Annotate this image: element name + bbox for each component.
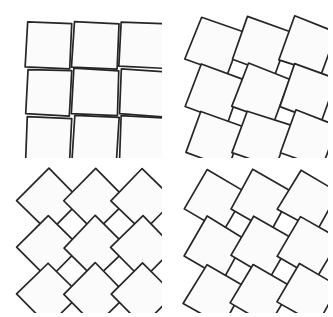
- tile-r0-c2: [279, 16, 328, 74]
- panel-bottom-right: [176, 163, 328, 313]
- panel-bottom-left-canvas: [10, 163, 162, 313]
- panel-bottom-right-canvas: [176, 163, 328, 313]
- tile-r1-c0: [26, 70, 72, 116]
- tile-r2-c2: [120, 116, 162, 158]
- tile-r1-c1: [71, 68, 118, 115]
- tile-r2-c0: [26, 117, 72, 158]
- tile-r0-c1: [71, 22, 119, 69]
- tile-r0-c2: [119, 22, 162, 68]
- tile-r0-c0: [25, 22, 72, 69]
- tile-r1-c1: [232, 63, 290, 122]
- tile-r2-c1: [72, 115, 119, 158]
- panel-top-left-canvas: [10, 8, 162, 158]
- tile-r1-c0: [185, 64, 243, 122]
- panel-top-right-canvas: [176, 8, 328, 158]
- tile-r0-c1: [232, 16, 290, 75]
- panel-bottom-left: [10, 163, 162, 313]
- tile-r0-c0: [185, 17, 244, 74]
- panel-top-left: [10, 8, 162, 158]
- panel-top-right: [176, 8, 328, 158]
- tile-r1-c2: [120, 69, 162, 117]
- tile-r2-c2: [111, 263, 162, 313]
- tessellation-figure: [0, 0, 333, 317]
